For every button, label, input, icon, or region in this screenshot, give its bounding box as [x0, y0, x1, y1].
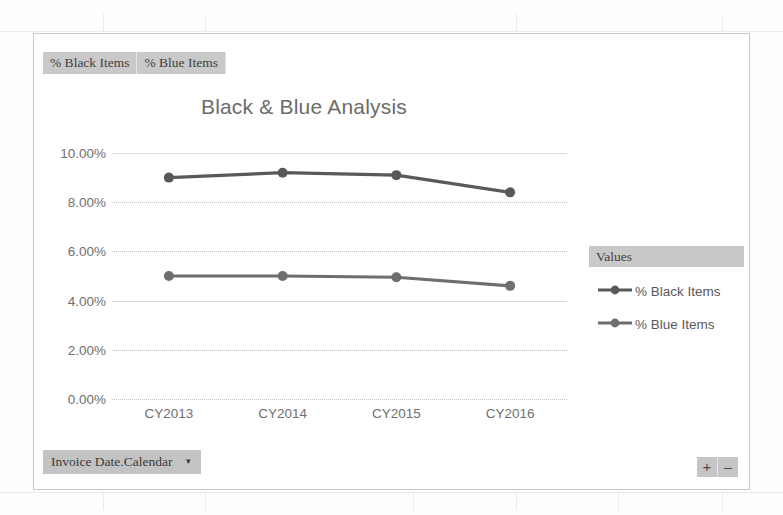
data-point[interactable]: [391, 170, 401, 180]
legend-label: % Black Items: [635, 284, 721, 299]
legend-header[interactable]: Values: [589, 246, 744, 267]
data-point[interactable]: [505, 187, 515, 197]
data-point[interactable]: [164, 173, 174, 183]
x-axis-tick-label: CY2013: [144, 406, 193, 421]
x-axis-tick-label: CY2014: [258, 406, 307, 421]
scan-guide-tick: [205, 492, 206, 510]
y-axis-tick-label: 8.00%: [68, 195, 106, 210]
series-blue-items: [164, 271, 515, 291]
gridline: [112, 399, 567, 401]
scan-guide-tick: [413, 492, 414, 510]
zoom-out-button[interactable]: –: [718, 457, 738, 477]
y-axis-tick-label: 0.00%: [68, 392, 106, 407]
y-axis-tick-label: 6.00%: [68, 244, 106, 259]
data-point[interactable]: [391, 272, 401, 282]
zoom-in-button[interactable]: +: [697, 457, 718, 477]
scan-guide-tick: [103, 14, 104, 32]
scan-guide-tick: [103, 492, 104, 510]
series-line: [169, 173, 510, 193]
data-point[interactable]: [164, 271, 174, 281]
data-point[interactable]: [278, 168, 288, 178]
y-axis-tick-label: 10.00%: [60, 146, 106, 161]
zoom-button-group: + –: [697, 457, 738, 477]
x-axis-tick-label: CY2016: [486, 406, 535, 421]
axis-field-button-invoice-date-calendar[interactable]: Invoice Date.Calendar ▾: [43, 450, 201, 474]
legend-label: % Blue Items: [635, 317, 715, 332]
scan-guide-line: [0, 31, 783, 32]
x-axis-tick-label: CY2015: [372, 406, 421, 421]
series-black-items: [164, 168, 515, 198]
legend-field-button-group: % Black Items % Blue Items: [43, 52, 226, 74]
scan-guide-tick: [722, 492, 723, 510]
x-axis: CY2013 CY2014 CY2015 CY2016: [112, 406, 567, 426]
series-line: [169, 276, 510, 286]
y-axis: 10.00% 8.00% 6.00% 4.00% 2.00% 0.00%: [34, 153, 106, 399]
legend-item-blue-items[interactable]: % Blue Items: [589, 315, 744, 333]
legend-marker-icon: [597, 282, 633, 300]
chart-title: Black & Blue Analysis: [34, 95, 574, 119]
scan-guide-tick: [205, 14, 206, 32]
scan-guide-tick: [722, 14, 723, 32]
field-button-blue-items[interactable]: % Blue Items: [137, 52, 226, 74]
scan-guide-line: [0, 492, 783, 493]
plot-area: [112, 153, 567, 399]
data-point[interactable]: [278, 271, 288, 281]
scan-guide-tick: [618, 492, 619, 510]
y-axis-tick-label: 4.00%: [68, 293, 106, 308]
field-button-black-items[interactable]: % Black Items: [43, 52, 137, 74]
scan-guide-tick: [516, 14, 517, 32]
series-plot: [112, 153, 567, 399]
pivot-chart-frame[interactable]: % Black Items % Blue Items Black & Blue …: [33, 33, 750, 490]
scan-guide-tick: [516, 492, 517, 510]
legend-panel: Values % Black Items % Blue Items: [589, 246, 744, 333]
chevron-down-icon[interactable]: ▾: [186, 449, 191, 473]
axis-field-button-label: Invoice Date.Calendar: [51, 450, 172, 474]
data-point[interactable]: [505, 281, 515, 291]
legend-item-black-items[interactable]: % Black Items: [589, 282, 744, 300]
y-axis-tick-label: 2.00%: [68, 342, 106, 357]
legend-marker-icon: [597, 315, 633, 333]
